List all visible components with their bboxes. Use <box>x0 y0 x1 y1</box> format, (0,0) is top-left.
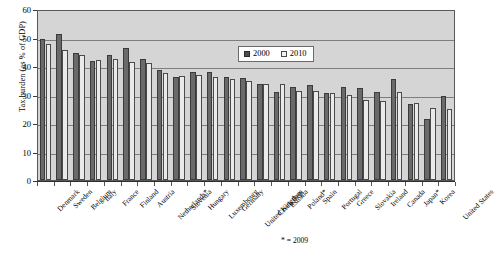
bar-group <box>188 11 205 180</box>
y-tick-label: 60 <box>22 6 31 15</box>
bar-2010 <box>363 100 369 180</box>
legend-label-2010: 2010 <box>290 49 307 58</box>
bar-2000 <box>441 96 447 180</box>
y-tick-label: 30 <box>22 91 31 100</box>
bar-group <box>71 11 88 180</box>
x-axis-labels: DenmarkSwedenBelgiumItalyFranceFinlandAu… <box>0 186 463 248</box>
y-axis-ticks: 0102030405060 <box>0 10 37 181</box>
bar-2000 <box>73 53 79 180</box>
y-tick-label: 40 <box>22 63 31 72</box>
bar-group <box>289 11 306 180</box>
bar-2010 <box>347 95 353 181</box>
bar-group <box>439 11 456 180</box>
bar-2000 <box>173 77 179 180</box>
bar-2000 <box>274 92 280 180</box>
bar-2010 <box>96 60 102 180</box>
bar-2000 <box>90 61 96 180</box>
legend-item-2010: 2010 <box>281 49 307 58</box>
bar-2010 <box>330 93 336 180</box>
bar-group <box>38 11 55 180</box>
bar-2010 <box>146 63 152 180</box>
legend-item-2000: 2000 <box>244 49 270 58</box>
bar-group <box>122 11 139 180</box>
bar-group <box>138 11 155 180</box>
bar-2000 <box>341 87 347 180</box>
bar-2010 <box>129 62 135 180</box>
bar-2000 <box>56 34 62 180</box>
bar-2010 <box>163 73 169 180</box>
bar-2010 <box>414 103 420 180</box>
x-axis-label: United States <box>461 188 494 221</box>
x-axis-label: France <box>121 188 140 207</box>
bar-2010 <box>113 59 119 180</box>
bar-2000 <box>123 48 129 180</box>
bar-group <box>272 11 289 180</box>
bar-2000 <box>408 104 414 180</box>
bar-2010 <box>380 101 386 180</box>
bar-group <box>55 11 72 180</box>
bar-2010 <box>79 55 85 180</box>
bar-2010 <box>296 91 302 180</box>
bar-2000 <box>424 119 430 180</box>
bar-2000 <box>257 84 263 180</box>
x-axis-label: Korea <box>438 188 456 206</box>
bar-group <box>222 11 239 180</box>
bar-2000 <box>391 79 397 180</box>
bar-2000 <box>374 92 380 180</box>
bar-2010 <box>430 108 436 180</box>
bar-2000 <box>190 72 196 180</box>
bar-group <box>155 11 172 180</box>
chart-legend: 2000 2010 <box>238 46 314 62</box>
bar-2010 <box>263 84 269 180</box>
bar-2010 <box>280 84 286 180</box>
bar-group <box>356 11 373 180</box>
bar-group <box>105 11 122 180</box>
bar-group <box>88 11 105 180</box>
y-tick-label: 50 <box>22 34 31 43</box>
bar-2010 <box>397 92 403 180</box>
bar-group <box>423 11 440 180</box>
plot-area <box>37 10 455 181</box>
bar-2000 <box>307 85 313 180</box>
bar-group <box>339 11 356 180</box>
bar-2000 <box>207 72 213 180</box>
bar-2000 <box>324 93 330 180</box>
bar-2010 <box>246 81 252 180</box>
chart-footnote: * = 2009 <box>281 236 308 245</box>
bar-2010 <box>62 50 68 180</box>
legend-swatch-2010-icon <box>281 51 287 57</box>
bar-group <box>205 11 222 180</box>
y-tick-label: 0 <box>27 177 31 186</box>
bar-group <box>372 11 389 180</box>
bar-2000 <box>157 70 163 180</box>
bar-group <box>239 11 256 180</box>
y-tick-label: 20 <box>22 120 31 129</box>
bar-2000 <box>290 87 296 180</box>
bar-2000 <box>40 39 46 180</box>
bar-2010 <box>447 109 453 180</box>
x-axis-label: Finland <box>139 188 160 209</box>
y-tick-label: 10 <box>22 148 31 157</box>
bar-group <box>389 11 406 180</box>
bar-2000 <box>357 88 363 180</box>
bar-2010 <box>46 44 52 180</box>
bar-2010 <box>313 91 319 180</box>
bar-group <box>322 11 339 180</box>
legend-swatch-2000-icon <box>244 51 250 57</box>
x-axis-label: Germany <box>240 188 265 213</box>
bar-2010 <box>196 75 202 180</box>
bar-2000 <box>240 78 246 180</box>
bar-2010 <box>179 76 185 180</box>
bar-2000 <box>107 55 113 180</box>
legend-label-2000: 2000 <box>253 49 270 58</box>
bar-2000 <box>140 59 146 180</box>
bar-group <box>306 11 323 180</box>
bar-2000 <box>224 77 230 180</box>
bar-2010 <box>213 77 219 180</box>
bar-series-container <box>38 11 454 180</box>
bar-group <box>255 11 272 180</box>
bar-group <box>172 11 189 180</box>
bar-group <box>406 11 423 180</box>
bar-2010 <box>230 79 236 180</box>
